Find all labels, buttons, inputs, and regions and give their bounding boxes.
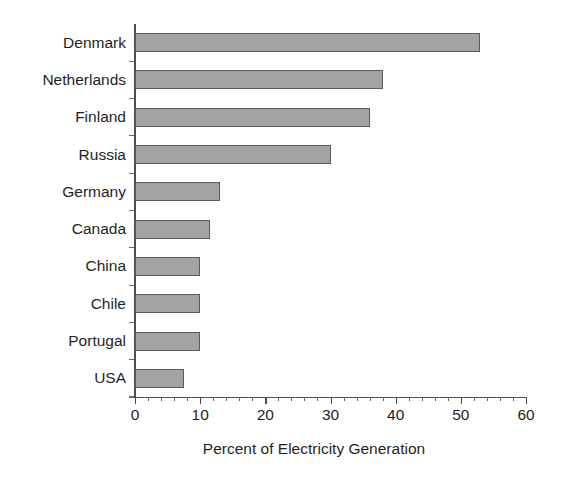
x-axis-minor-tick (370, 397, 371, 401)
x-axis-tick-label: 40 (387, 406, 404, 424)
x-axis-minor-tick (448, 397, 449, 401)
x-axis-minor-tick (252, 397, 253, 401)
x-axis-minor-tick (174, 397, 175, 401)
x-axis-minor-tick (487, 397, 488, 401)
y-axis-minor-tick (129, 210, 134, 211)
y-axis-minor-tick (129, 396, 134, 397)
x-axis-tick-label: 60 (517, 406, 534, 424)
x-axis-minor-tick (474, 397, 475, 401)
x-axis-minor-tick (226, 397, 227, 401)
category-label: Russia (0, 136, 126, 173)
x-axis-minor-tick (435, 397, 436, 401)
x-axis-minor-tick (187, 397, 188, 401)
bar (135, 369, 184, 388)
x-axis-tick-label: 50 (452, 406, 469, 424)
x-axis-tick-label: 0 (131, 406, 140, 424)
y-axis-minor-tick (129, 285, 134, 286)
y-axis-minor-tick (129, 135, 134, 136)
x-axis-title: Percent of Electricity Generation (0, 440, 576, 458)
bar-row (135, 136, 526, 173)
x-axis-major-tick (461, 397, 462, 404)
bar-row (135, 211, 526, 248)
x-axis-major-tick (396, 397, 397, 404)
x-axis-minor-tick (148, 397, 149, 401)
x-axis-minor-tick (500, 397, 501, 401)
bar (135, 108, 370, 127)
x-axis-tick-label: 30 (322, 406, 339, 424)
bar-row (135, 285, 526, 322)
x-axis-minor-tick (344, 397, 345, 401)
bar (135, 332, 200, 351)
x-axis-minor-tick (383, 397, 384, 401)
x-axis-minor-tick (513, 397, 514, 401)
x-axis-tick-label: 20 (257, 406, 274, 424)
category-label: Chile (0, 285, 126, 322)
x-axis-minor-tick (239, 397, 240, 401)
x-axis-major-tick (200, 397, 201, 404)
x-axis-minor-tick (304, 397, 305, 401)
category-label: Germany (0, 173, 126, 210)
bar-row (135, 322, 526, 359)
category-label: Netherlands (0, 61, 126, 98)
bar-row (135, 61, 526, 98)
bar (135, 182, 220, 201)
x-axis-major-tick (331, 397, 332, 404)
category-label: USA (0, 360, 126, 397)
bar (135, 294, 200, 313)
bar-row (135, 99, 526, 136)
x-axis-minor-tick (357, 397, 358, 401)
bar-row (135, 248, 526, 285)
x-axis-minor-tick (291, 397, 292, 401)
x-axis-minor-tick (161, 397, 162, 401)
category-axis-labels: DenmarkNetherlandsFinlandRussiaGermanyCa… (0, 24, 126, 397)
category-label: Finland (0, 99, 126, 136)
x-axis-major-tick (135, 397, 136, 404)
y-axis-minor-tick (129, 359, 134, 360)
category-label: China (0, 248, 126, 285)
y-axis-minor-tick (129, 61, 134, 62)
bar-row (135, 360, 526, 397)
x-axis-minor-tick (317, 397, 318, 401)
x-axis-title-text: Percent of Electricity Generation (203, 440, 425, 458)
category-label: Denmark (0, 24, 126, 61)
bar-row (135, 24, 526, 61)
y-axis-minor-tick (129, 322, 134, 323)
bar (135, 257, 200, 276)
bar (135, 33, 480, 52)
bar (135, 70, 383, 89)
bar (135, 220, 210, 239)
category-label: Portugal (0, 322, 126, 359)
bar-series (135, 24, 526, 397)
x-axis-major-tick (526, 397, 527, 404)
y-axis-minor-tick (129, 98, 134, 99)
x-axis-minor-tick (409, 397, 410, 401)
y-axis-minor-tick (129, 247, 134, 248)
y-axis-minor-tick (129, 173, 134, 174)
bar (135, 145, 331, 164)
x-axis-minor-tick (422, 397, 423, 401)
x-axis-minor-tick (213, 397, 214, 401)
bar-chart: DenmarkNetherlandsFinlandRussiaGermanyCa… (0, 0, 576, 488)
x-axis-major-tick (265, 397, 266, 404)
x-axis-tick-label: 10 (192, 406, 209, 424)
x-axis-minor-tick (278, 397, 279, 401)
category-label: Canada (0, 211, 126, 248)
bar-row (135, 173, 526, 210)
